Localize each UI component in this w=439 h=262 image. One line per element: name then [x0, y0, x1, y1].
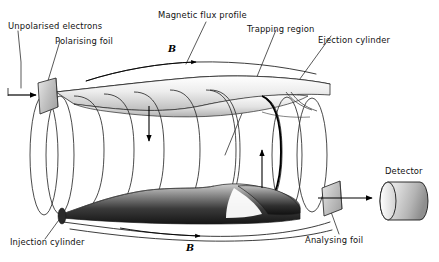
label-ejection-cylinder: Ejection cylinder	[318, 36, 390, 44]
coil-turn-0	[30, 95, 58, 215]
label-b-field-top: B	[168, 44, 176, 54]
label-magnetic-flux-profile: Magnetic flux profile	[158, 11, 247, 19]
label-unpolarised-electrons: Unpolarised electrons	[8, 22, 102, 30]
flux-arrow-bottom	[120, 228, 200, 236]
ejection-cylinder-shape	[56, 76, 330, 117]
leader-magnetic-flux-profile	[186, 22, 206, 64]
label-detector: Detector	[385, 167, 423, 175]
label-trapping-region: Trapping region	[247, 25, 314, 33]
polarising-foil-shape	[38, 78, 58, 114]
flux-arrow-top	[86, 62, 196, 81]
label-analysing-foil: Analysing foil	[305, 236, 363, 244]
detector-shape	[380, 182, 428, 220]
figure-canvas: Unpolarised electrons Polarising foil Ma…	[0, 0, 439, 262]
interior-field-arrows	[149, 106, 262, 188]
leader-polarising-foil	[47, 41, 60, 84]
label-b-field-bottom: B	[186, 243, 194, 253]
leader-unpolarised-electrons	[18, 31, 21, 88]
injection-cylinder-shape	[58, 184, 300, 224]
label-polarising-foil: Polarising foil	[55, 37, 113, 45]
coil-turn-2	[74, 96, 104, 214]
label-injection-cylinder: Injection cylinder	[10, 238, 85, 246]
coil-turn-1	[46, 96, 74, 214]
